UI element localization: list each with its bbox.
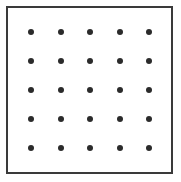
dot-cell [16,18,46,47]
dot-cell [46,134,76,163]
figure-canvas [0,0,181,182]
dot-cell [134,134,164,163]
dot-cell [46,47,76,76]
grid-dot [58,58,64,64]
grid-dot [117,87,123,93]
grid-dot [58,145,64,151]
grid-dot [87,58,93,64]
grid-dot [146,29,152,35]
grid-dot [117,29,123,35]
dot-cell [134,76,164,105]
grid-dot [28,58,34,64]
grid-dot [87,87,93,93]
dot-cell [16,134,46,163]
grid-dot [117,145,123,151]
grid-dot [146,145,152,151]
dot-cell [105,105,135,134]
dot-cell [134,18,164,47]
dot-cell [75,76,105,105]
grid-dot [146,87,152,93]
grid-dot [117,58,123,64]
grid-dot [87,29,93,35]
dot-grid [16,18,164,163]
dot-cell [75,47,105,76]
dot-cell [75,134,105,163]
grid-dot [87,145,93,151]
dot-cell [134,105,164,134]
grid-dot [58,116,64,122]
grid-dot [28,29,34,35]
grid-dot [117,116,123,122]
dot-cell [46,105,76,134]
dot-cell [105,134,135,163]
grid-dot [58,87,64,93]
dot-cell [105,47,135,76]
dot-cell [134,47,164,76]
dot-cell [46,18,76,47]
grid-dot [28,87,34,93]
grid-dot [28,145,34,151]
grid-dot [146,116,152,122]
grid-dot [28,116,34,122]
dot-cell [16,76,46,105]
grid-dot [146,58,152,64]
dot-cell [105,18,135,47]
dot-cell [75,18,105,47]
dot-cell [16,105,46,134]
grid-dot [58,29,64,35]
grid-dot [87,116,93,122]
dot-cell [16,47,46,76]
dot-cell [75,105,105,134]
dot-cell [105,76,135,105]
dot-cell [46,76,76,105]
